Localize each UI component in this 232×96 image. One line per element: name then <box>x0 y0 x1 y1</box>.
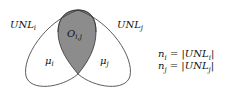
set-label-left: UNLi <box>10 19 36 32</box>
equation-nj: nj = |UNLj| <box>158 60 214 74</box>
set-label-right: UNLj <box>117 19 144 32</box>
intersection-region <box>58 10 96 74</box>
region-label-right: μj <box>100 55 110 68</box>
region-label-left: μi <box>45 55 54 68</box>
